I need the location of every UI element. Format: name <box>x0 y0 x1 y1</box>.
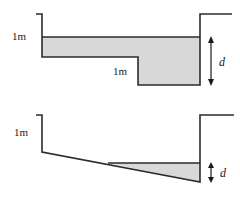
bottom-depth-d-label: d <box>220 166 227 180</box>
top-panel-group: 1m 1m d <box>12 14 232 86</box>
bottom-left-wall-depth-label: 1m <box>14 126 29 138</box>
top-depth-d-label: d <box>219 55 226 69</box>
bottom-panel-group: 1m d <box>14 115 234 183</box>
top-step-depth-label: 1m <box>113 65 128 77</box>
top-water-fill <box>42 37 200 85</box>
bottom-dimension-arrowhead-up <box>208 162 214 168</box>
top-dimension-arrowhead-down <box>208 79 214 86</box>
top-dimension-arrowhead-up <box>208 36 214 43</box>
top-depth-d-dimension <box>208 36 214 86</box>
bottom-depth-d-dimension <box>208 162 214 183</box>
bottom-channel-outline <box>36 115 234 182</box>
channel-cross-section-figure: 1m 1m d 1m d <box>0 0 240 199</box>
bottom-dimension-arrowhead-down <box>208 177 214 183</box>
top-left-wall-depth-label: 1m <box>12 30 27 42</box>
figure-container: 1m 1m d 1m d <box>0 0 240 199</box>
